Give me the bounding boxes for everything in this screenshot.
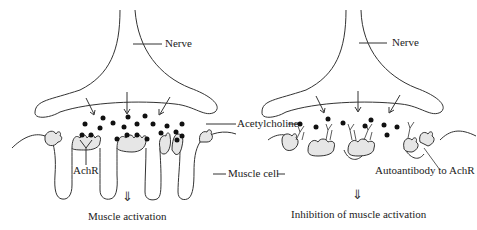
acetylcholine-label: Acetylcholine — [237, 118, 299, 129]
right-achr-receptors — [282, 132, 434, 156]
left-outcome-label: Muscle activation — [88, 211, 167, 222]
right-outcome-arrow-icon: ⇓ — [352, 188, 363, 201]
right-outcome-label: Inhibition of muscle activation — [291, 209, 426, 220]
achr-label: AchR — [73, 165, 99, 176]
right-nerve-terminal — [262, 10, 443, 117]
right-acetylcholine-molecules — [298, 117, 400, 138]
right-release-arrows — [316, 91, 400, 113]
autoantibody-label: Autoantibody to AchR — [375, 165, 475, 176]
left-nerve-terminal — [35, 10, 217, 117]
diagram-canvas — [0, 0, 477, 230]
left-outcome-arrow-icon: ⇓ — [122, 190, 133, 203]
left-release-arrows — [86, 92, 170, 115]
left-nerve-label: Nerve — [165, 38, 192, 49]
right-nerve-label: Nerve — [392, 37, 419, 48]
muscle-cell-label: Muscle cell — [228, 168, 279, 179]
